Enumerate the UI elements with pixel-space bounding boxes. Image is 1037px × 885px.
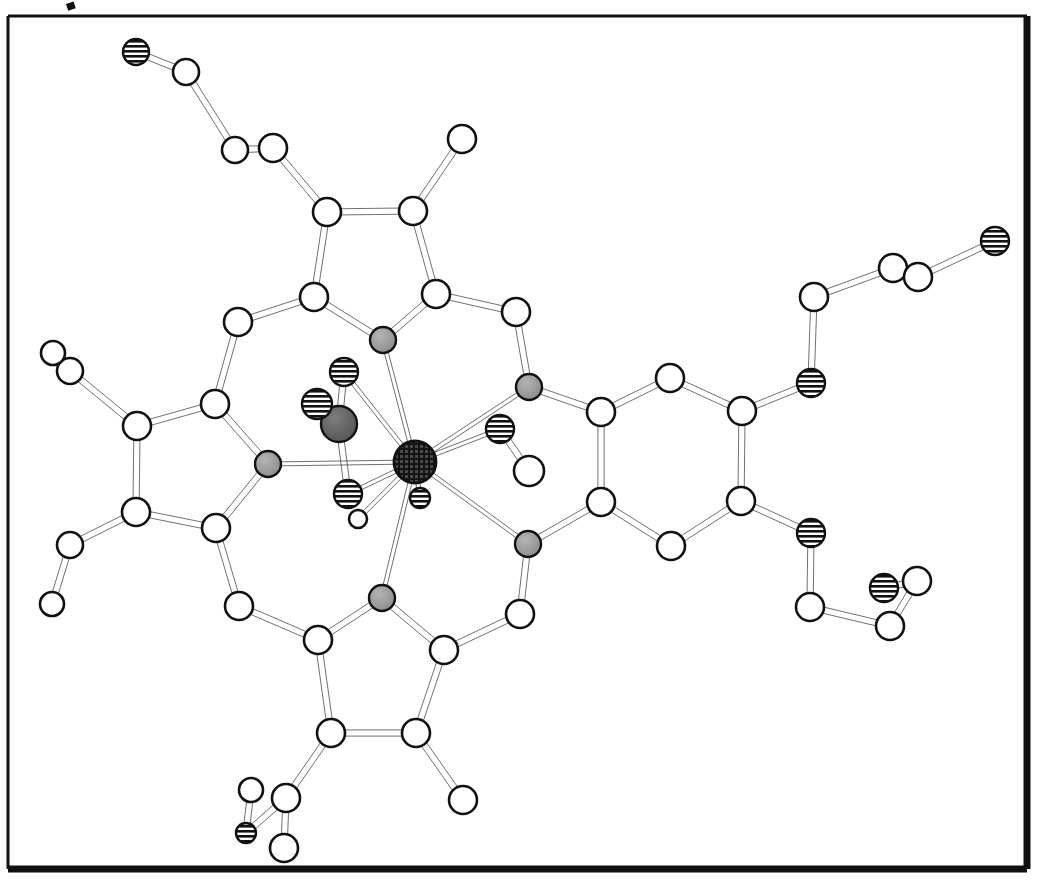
bond-N5-C11 [218,408,266,461]
atom-carbon-C26 [272,784,300,812]
bond-C20-C23 [316,647,333,726]
bond-N4-C21 [385,600,440,647]
bond-C29-C30 [598,420,604,495]
atom-carbon-C24 [506,600,534,628]
atom-carbon-C33 [727,487,755,515]
bond-M1-N3 [423,467,523,541]
atom-carbon-C1 [300,283,328,311]
bond-C2-C7 [276,152,325,208]
atom-carbon-C27 [270,834,298,862]
atom-oxygen-O3 [334,480,362,508]
atom-oxygen-O5 [486,415,514,443]
bond-C2-C3 [335,208,406,215]
bond-C3-C4 [412,218,437,288]
atom-oxygen-O10 [797,519,825,547]
atom-carbon-C18 [57,532,83,558]
atom-oxygen-O7 [236,823,256,843]
bond-C34-C30 [606,503,666,544]
atom-oxygen-O8 [797,369,825,397]
atom-carbon-C15 [225,592,253,620]
atom-metal-M1 [394,441,436,483]
atom-oxygen-O11 [870,574,898,602]
atom-carbon-Ow [349,510,367,528]
bond-C1-C2 [312,219,329,290]
bond-O10-C38 [807,541,814,600]
atom-carbon-C31 [656,364,684,392]
bond-C8-C9 [187,76,234,145]
atom-carbon-C25 [449,786,477,814]
atom-carbon-C23 [317,719,345,747]
atom-nitrogen-N2 [516,374,542,400]
bond-C1-C5 [244,296,307,322]
atom-carbon-C14 [202,514,230,542]
atom-oxygen-O4 [410,488,430,508]
atom-carbon-C13 [122,498,150,526]
bond-layer [51,52,989,841]
bond-M1-O1 [347,377,409,454]
bond-C11-C12 [144,403,209,427]
atom-carbon-C60 [514,456,544,486]
atom-carbon-C37 [904,263,932,291]
bond-N3-C24 [518,551,530,607]
bond-C33-O10 [747,501,806,532]
bond-C37-O9 [924,241,990,276]
atom-carbon-C12 [123,412,151,440]
bond-N5-C14 [218,468,265,524]
atom-carbon-C30 [587,488,615,516]
bond-C22-C21 [416,656,445,726]
molecular-structure-diagram [0,0,1037,885]
atom-nitrogen-N5 [255,451,281,477]
bond-C33-C34 [676,503,736,545]
bond-C38-C39 [817,606,883,627]
bond-C21-C24 [450,614,515,649]
bond-C12-C16 [74,373,133,423]
bond-C12-C13 [133,434,140,505]
atom-carbon-C11 [201,390,229,418]
bond-M1-N5 [275,460,403,466]
bond-N1-C1 [319,298,379,338]
atom-carbon-C10 [448,125,476,153]
atom-carbon-C6 [502,298,530,326]
bond-C31-C32 [676,378,737,410]
bond-C14-C15 [215,535,240,600]
atom-oxygen-O6 [123,39,149,65]
atom-carbon-C20 [304,626,332,654]
atom-carbon-C32 [728,397,756,425]
atom-nitrogen-N3 [515,531,541,557]
atom-carbon-C7 [259,134,287,162]
atom-carbon-C38 [796,593,824,621]
atom-carbon-C39 [876,612,904,640]
bond-C15-C20 [245,606,312,640]
atom-carbon-C2 [313,198,341,226]
bond-C4-C6 [443,293,509,314]
atom-oxygen-O2 [302,389,332,419]
bond-M1-N4 [382,473,414,592]
atom-carbon-C28 [239,778,263,802]
bond-N2-C29 [535,386,595,412]
atom-carbon-C8 [222,137,248,163]
bond-N2-C6 [514,319,531,380]
figure-canvas [0,0,1037,885]
bond-C13-C14 [143,510,209,529]
atom-carbon-C3 [399,197,427,225]
bond-C32-C33 [738,419,745,494]
bond-C22-C25 [418,738,461,796]
bond-C23-C22 [339,730,409,736]
bond-C5-C11 [214,329,239,398]
atom-oxygen-O9 [981,227,1009,255]
atom-carbon-C19 [40,592,64,616]
atom-nitrogen-N1 [370,327,396,353]
atom-nitrogen-N4 [369,585,395,611]
atom-carbon-C5 [224,308,252,336]
atom-carbon-C35 [800,283,828,311]
bond-M1-N1 [383,346,414,451]
atom-carbon-C29 [587,398,615,426]
figure-frame [8,2,1027,869]
atom-oxygen-O1 [330,358,358,386]
atom-carbon-C9 [173,59,199,85]
atom-carbon-C4 [422,280,450,308]
stray-ink-mark [66,2,76,11]
bond-C35-C36 [820,268,887,298]
bond-N3-C30 [533,503,596,543]
atom-carbon-C17 [41,341,65,365]
